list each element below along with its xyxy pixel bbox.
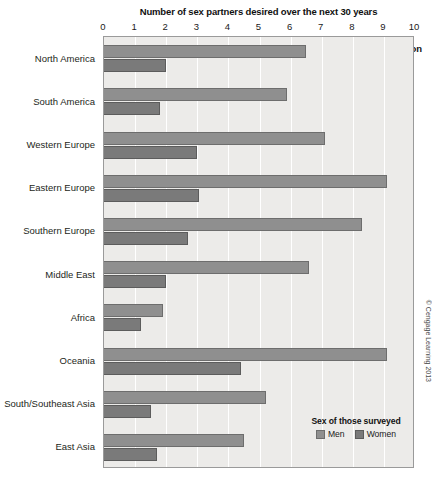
legend-label-women: Women (367, 429, 396, 439)
plot-area (103, 36, 414, 468)
region-label-east-asia: East Asia (55, 441, 95, 452)
region-label-southern-europe: Southern Europe (23, 225, 95, 236)
bar-women-oceania (104, 362, 241, 375)
x-tick-label: 5 (256, 21, 261, 32)
chart-title: Number of sex partners desired over the … (103, 6, 414, 17)
x-tick-label: 3 (194, 21, 199, 32)
legend-label-men: Men (328, 429, 345, 439)
region-label-africa: Africa (71, 311, 95, 322)
gridline (291, 37, 292, 467)
legend-item-men: Men (316, 429, 345, 439)
bar-men-south-america (104, 88, 287, 101)
bar-women-south-southeast-asia (104, 405, 151, 418)
bar-women-middle-east (104, 275, 166, 288)
legend-items: MenWomen (300, 429, 412, 439)
bar-men-oceania (104, 348, 387, 361)
legend-item-women: Women (355, 429, 396, 439)
bar-men-south-southeast-asia (104, 391, 266, 404)
x-tick-label: 6 (287, 21, 292, 32)
region-label-south-america: South America (33, 95, 95, 106)
region-label-north-america: North America (35, 52, 95, 63)
bar-women-east-asia (104, 448, 157, 461)
bar-women-north-america (104, 59, 166, 72)
copyright-credit: © Cengage Learning 2013 (425, 300, 432, 382)
gridline (322, 37, 323, 467)
bar-men-eastern-europe (104, 175, 387, 188)
bar-men-middle-east (104, 261, 309, 274)
x-tick-label: 8 (349, 21, 354, 32)
x-tick-label: 10 (409, 21, 420, 32)
bar-women-eastern-europe (104, 189, 199, 202)
region-label-middle-east: Middle East (45, 268, 95, 279)
x-tick-label: 2 (163, 21, 168, 32)
gridline (384, 37, 385, 467)
x-tick-label: 7 (318, 21, 323, 32)
gridline (353, 37, 354, 467)
x-tick-label: 9 (380, 21, 385, 32)
x-axis-tick-labels: 012345678910 (103, 21, 414, 34)
bar-women-south-america (104, 102, 160, 115)
bar-men-north-america (104, 45, 306, 58)
bar-men-western-europe (104, 132, 325, 145)
x-tick-label: 4 (225, 21, 230, 32)
bar-women-africa (104, 318, 141, 331)
bar-men-east-asia (104, 434, 244, 447)
region-label-oceania: Oceania (60, 355, 95, 366)
legend-swatch-men-icon (316, 430, 325, 439)
legend-title: Sex of those surveyed (300, 416, 412, 426)
legend-swatch-women-icon (355, 430, 364, 439)
x-tick-label: 1 (131, 21, 136, 32)
region-label-eastern-europe: Eastern Europe (29, 182, 95, 193)
bar-women-southern-europe (104, 232, 188, 245)
bar-women-western-europe (104, 146, 197, 159)
bar-men-southern-europe (104, 218, 362, 231)
copyright-credit-text: © Cengage Learning 2013 (425, 300, 432, 382)
legend: Sex of those surveyed MenWomen (300, 416, 412, 439)
region-label-south-southeast-asia: South/Southeast Asia (4, 398, 95, 409)
x-tick-label: 0 (100, 21, 105, 32)
y-axis-category-labels: North AmericaSouth AmericaWestern Europe… (0, 36, 99, 468)
bar-men-africa (104, 304, 163, 317)
region-label-western-europe: Western Europe (27, 139, 95, 150)
